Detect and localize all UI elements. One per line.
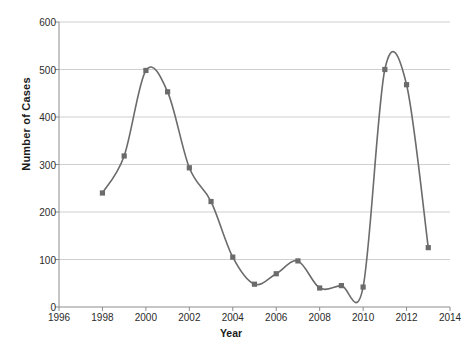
- data-point-marker: 2000: 498: [143, 68, 148, 73]
- x-tick-label: 1996: [39, 312, 79, 323]
- data-point-marker: 2002: 293: [187, 165, 192, 170]
- data-point-marker: 2001: 453: [165, 89, 170, 94]
- data-point-marker: 2006: 70: [274, 271, 279, 276]
- plot-area: 1998: 2401999: 3182000: 4982001: 4532002…: [0, 0, 462, 347]
- y-tick-label: 100: [30, 254, 56, 265]
- gridlines: [59, 22, 450, 260]
- data-point-marker: 2009: 45: [339, 283, 344, 288]
- data-point-marker: 2003: 222: [208, 199, 213, 204]
- data-point-marker: 1998: 240: [100, 190, 105, 195]
- y-tick-label: 600: [30, 17, 56, 28]
- x-tick-label: 2006: [256, 312, 296, 323]
- x-tick-label: 1998: [82, 312, 122, 323]
- data-point-marker: 2004: 105: [230, 255, 235, 260]
- y-tick-label: 200: [30, 207, 56, 218]
- y-axis-title: Number of Cases: [20, 54, 32, 194]
- data-point-marker: 2011: 500: [382, 67, 387, 72]
- x-tick-label: 2014: [430, 312, 462, 323]
- y-tick-label: 0: [30, 302, 56, 313]
- y-tick-label: 300: [30, 159, 56, 170]
- y-tick-label: 400: [30, 112, 56, 123]
- x-tick-label: 2004: [213, 312, 253, 323]
- x-tick-marks: [59, 307, 450, 311]
- y-tick-label: 500: [30, 64, 56, 75]
- x-tick-label: 2010: [343, 312, 383, 323]
- line-chart: 1998: 2401999: 3182000: 4982001: 4532002…: [0, 0, 462, 347]
- data-point-marker: 2005: 48: [252, 282, 257, 287]
- data-point-marker: 2007: 97: [295, 258, 300, 263]
- data-point-marker: 2008: 40: [317, 285, 322, 290]
- data-line-series-1: [102, 52, 428, 303]
- x-tick-label: 2012: [387, 312, 427, 323]
- data-point-marker: 2010: 42: [361, 284, 366, 289]
- x-tick-label: 2008: [300, 312, 340, 323]
- x-tick-label: 2000: [126, 312, 166, 323]
- data-point-marker: 2013: 125: [426, 245, 431, 250]
- data-point-marker: 1999: 318: [122, 153, 127, 158]
- y-tick-label-group: 600 500 400 300 200 100 0: [30, 0, 56, 347]
- data-point-marker: 2012: 468: [404, 82, 409, 87]
- x-tick-label: 2002: [169, 312, 209, 323]
- x-axis-title: Year: [0, 327, 462, 339]
